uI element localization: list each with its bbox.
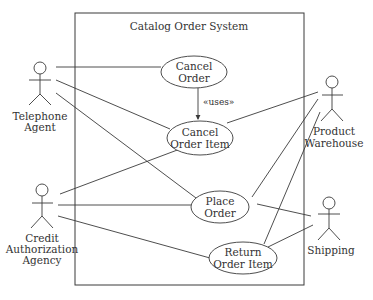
stick-figure-icon <box>29 62 51 105</box>
assoc-telephone-cancel-order-item <box>56 80 170 129</box>
use-case-label: Order <box>204 207 237 219</box>
assoc-shipping-place-order <box>257 204 311 216</box>
actor-telephone-agent[interactable]: Telephone Agent <box>13 62 68 133</box>
actor-credit-authorization-agency[interactable]: Credit Authorization Agency <box>5 184 79 266</box>
use-case-cancel-order[interactable]: Cancel Order <box>161 56 227 88</box>
assoc-credit-return-order-item <box>58 216 210 258</box>
stick-figure-icon <box>31 184 53 228</box>
use-case-label: Place <box>206 195 235 207</box>
uses-dependency: «uses» <box>198 88 234 119</box>
use-case-place-order[interactable]: Place Order <box>191 191 249 223</box>
associations <box>56 67 320 258</box>
actor-product-warehouse[interactable]: Product Warehouse <box>305 76 364 149</box>
stick-figure-icon <box>321 76 343 121</box>
use-case-diagram: Catalog Order System «uses» Cancel Order… <box>0 0 373 300</box>
actor-label: Warehouse <box>305 137 364 149</box>
uses-label: «uses» <box>203 97 234 107</box>
actor-label: Shipping <box>307 244 355 256</box>
use-case-label: Cancel <box>176 60 213 72</box>
actor-label: Product <box>313 125 356 137</box>
assoc-warehouse-return-order-item <box>264 112 320 244</box>
use-case-label: Order Item <box>170 138 230 150</box>
actor-shipping[interactable]: Shipping <box>307 197 355 256</box>
use-case-label: Cancel <box>182 126 219 138</box>
assoc-credit-cancel-order-item <box>60 146 188 194</box>
actor-label: Agency <box>21 254 61 266</box>
use-case-return-order-item[interactable]: Return Order Item <box>209 242 277 274</box>
use-case-label: Order Item <box>213 258 273 270</box>
actor-label: Agent <box>23 121 56 133</box>
use-case-label: Order <box>178 72 211 84</box>
use-case-cancel-order-item[interactable]: Cancel Order Item <box>167 121 233 155</box>
stick-figure-icon <box>318 197 340 240</box>
use-case-label: Return <box>225 246 262 258</box>
diagram-canvas: Catalog Order System «uses» Cancel Order… <box>0 0 373 300</box>
system-title: Catalog Order System <box>130 20 248 32</box>
